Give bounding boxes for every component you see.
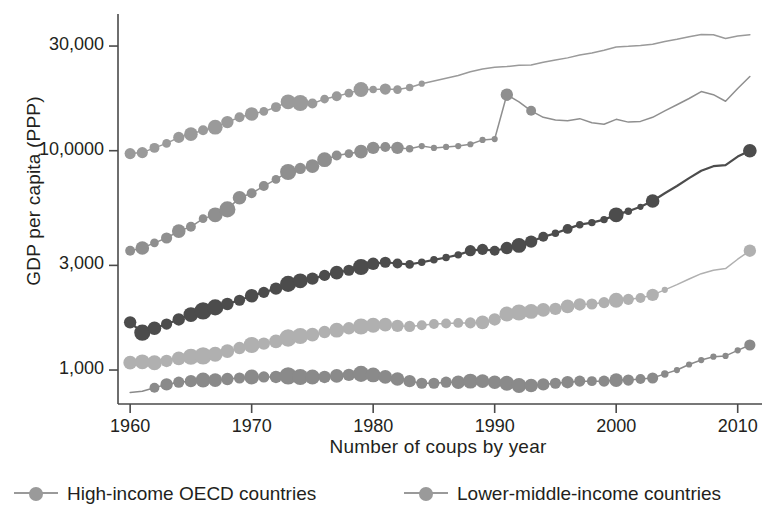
- series-marker: [345, 89, 354, 98]
- legend-entry-lower-middle-income[interactable]: Lower-middle-income countries: [404, 484, 721, 503]
- legend-label-lower-middle-income: Lower-middle-income countries: [457, 484, 721, 503]
- series-marker: [306, 272, 318, 284]
- series-line: [130, 34, 750, 153]
- series-marker: [538, 232, 548, 242]
- series-marker: [233, 191, 247, 205]
- series-marker: [149, 383, 159, 393]
- series-marker: [380, 83, 391, 94]
- series-marker: [492, 136, 498, 142]
- legend-label-high-income: High-income OECD countries: [67, 484, 316, 503]
- series-marker: [744, 245, 756, 257]
- series-marker: [662, 287, 668, 293]
- series-marker: [367, 258, 379, 270]
- series-marker: [318, 371, 330, 383]
- series-marker: [185, 375, 197, 387]
- series-marker: [744, 339, 755, 350]
- series-marker: [207, 299, 223, 315]
- series-marker: [735, 347, 741, 353]
- series-marker: [318, 326, 330, 338]
- series-marker: [295, 163, 306, 174]
- y-axis-tick-label: 1,000: [4, 358, 104, 379]
- series-marker: [647, 372, 658, 383]
- series-marker: [451, 375, 465, 389]
- series-marker: [306, 159, 320, 173]
- x-axis-tick-label: 1990: [450, 416, 540, 437]
- series-marker: [406, 145, 413, 152]
- series-marker: [125, 246, 135, 256]
- series-marker: [625, 207, 632, 214]
- series-marker: [160, 355, 172, 367]
- series-marker: [147, 355, 162, 370]
- series-marker: [501, 89, 513, 101]
- y-axis-tick-label: 3,000: [4, 253, 104, 274]
- series-marker: [354, 82, 369, 97]
- series-marker: [330, 369, 344, 383]
- series-marker: [125, 148, 136, 159]
- series-marker: [184, 127, 198, 141]
- legend-dot: [29, 487, 43, 501]
- series-marker: [455, 251, 462, 258]
- series-marker: [574, 298, 586, 310]
- series-marker: [198, 125, 208, 135]
- series-marker: [354, 145, 368, 159]
- series-marker: [319, 270, 330, 281]
- series-marker: [430, 256, 437, 263]
- series-marker: [317, 152, 332, 167]
- series-marker: [150, 239, 159, 248]
- series-marker: [512, 378, 527, 393]
- series-marker: [199, 214, 208, 223]
- series-marker: [172, 224, 186, 238]
- series-marker: [160, 378, 172, 390]
- series-marker: [465, 245, 476, 256]
- series-marker: [609, 373, 623, 387]
- series-marker: [272, 175, 281, 184]
- series-marker: [219, 201, 235, 217]
- x-axis-tick-label: 1960: [85, 416, 175, 437]
- series-marker: [623, 374, 634, 385]
- y-axis-ticks: [109, 46, 118, 370]
- series-marker: [244, 370, 259, 385]
- series-marker: [463, 374, 478, 389]
- legend-dot: [419, 487, 433, 501]
- series-marker: [441, 319, 451, 329]
- series-marker: [623, 294, 634, 305]
- series-marker: [550, 378, 561, 389]
- series-marker: [598, 297, 609, 308]
- series-marker: [258, 337, 270, 349]
- series-marker: [161, 232, 172, 243]
- series-marker: [148, 321, 162, 335]
- series-marker: [465, 317, 476, 328]
- legend-marker-icon: [404, 484, 448, 502]
- series-marker: [186, 222, 196, 232]
- series-marker: [419, 81, 425, 87]
- series-marker: [259, 181, 269, 191]
- series-marker: [353, 259, 369, 275]
- series-marker: [306, 328, 320, 342]
- series-marker: [403, 375, 415, 387]
- series-marker: [307, 99, 317, 109]
- series-marker: [476, 374, 490, 388]
- x-axis-tick-label: 1980: [328, 416, 418, 437]
- series-marker: [208, 120, 223, 135]
- series-marker: [345, 149, 354, 158]
- series-marker: [453, 318, 463, 328]
- series-line: [130, 76, 750, 250]
- series-marker: [162, 139, 171, 148]
- series-marker: [305, 370, 320, 385]
- series-marker: [135, 241, 149, 255]
- series-marker: [366, 318, 381, 333]
- series-marker: [173, 377, 184, 388]
- series-marker: [391, 320, 403, 332]
- series-marker: [552, 230, 559, 237]
- series-marker: [524, 304, 539, 319]
- series-marker: [221, 298, 233, 310]
- series-marker: [404, 321, 415, 332]
- series-marker: [406, 84, 413, 91]
- series-marker: [561, 300, 575, 314]
- series-marker: [686, 361, 692, 367]
- series-marker: [208, 373, 222, 387]
- legend-entry-high-income[interactable]: High-income OECD countries: [14, 484, 404, 503]
- y-axis-tick-label: 10,0000: [4, 139, 104, 160]
- series-marker: [525, 235, 537, 247]
- series-marker: [549, 303, 561, 315]
